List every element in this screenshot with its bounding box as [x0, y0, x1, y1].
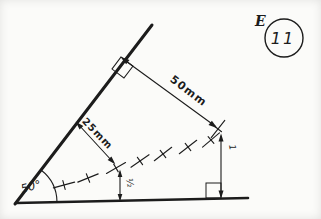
angle-label: 50°: [19, 177, 42, 196]
arrowhead: [219, 134, 224, 142]
badge-number: 11: [271, 29, 295, 48]
height-right-label: 1: [227, 144, 238, 151]
height-dimension-right: 1: [206, 134, 238, 199]
arrowhead: [118, 170, 123, 178]
ground-line: [16, 198, 248, 203]
locus-point-cross: [128, 151, 151, 171]
locus-point-cross: [76, 170, 100, 187]
locus-diagram: 50° 50mm 25mm: [0, 0, 321, 219]
angle-arc: [41, 170, 57, 202]
locus-point-cross: [177, 137, 200, 158]
badge-letter: E: [254, 13, 266, 29]
locus-point-cross: [200, 129, 223, 150]
locus-point-cross: [208, 118, 229, 141]
exercise-badge: E 11: [254, 13, 303, 57]
locus-point-cross: [104, 159, 128, 178]
height-left-label: ½: [124, 177, 136, 188]
drawing-sheet: 50° 50mm 25mm: [0, 0, 321, 219]
dimension-25mm: 25mm: [74, 115, 117, 166]
height-dimension-left: ½: [118, 170, 136, 202]
locus-point-cross: [152, 144, 175, 165]
dim-50-label: 50mm: [167, 73, 209, 109]
dimension-50mm: 50mm: [112, 54, 219, 130]
locus-crosses: [52, 118, 228, 193]
